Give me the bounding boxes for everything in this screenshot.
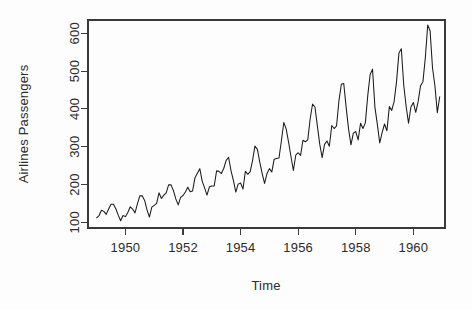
x-tick-label: 1952 [168,240,198,255]
x-tick-label: 1960 [398,240,428,255]
x-tick-label: 1956 [283,240,313,255]
x-tick-label: 1954 [226,240,256,255]
y-tick-label: 300 [68,136,83,158]
x-tick-label: 1958 [341,240,371,255]
y-tick-label: 200 [68,173,83,195]
y-axis-title: Airlines Passengers [16,64,31,183]
y-tick-label: 400 [68,98,83,120]
x-tick-label: 1950 [111,240,141,255]
y-tick-label: 100 [68,211,83,233]
chart-canvas: 195019521954195619581960 100200300400500… [0,0,472,309]
y-tick-label: 600 [68,22,83,44]
y-tick-label: 500 [68,60,83,82]
x-axis-title: Time [251,278,280,293]
air-passengers-line-chart: 195019521954195619581960 100200300400500… [0,0,472,309]
